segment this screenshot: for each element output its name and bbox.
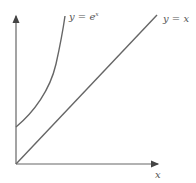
graph-canvas: y = ex y = x x — [0, 0, 196, 183]
identity-line-label: y = x — [162, 13, 189, 24]
exp-curve-label: y = ex — [68, 10, 99, 22]
exp-curve — [16, 16, 65, 127]
x-axis-label: x — [155, 169, 161, 180]
identity-line — [16, 15, 157, 164]
